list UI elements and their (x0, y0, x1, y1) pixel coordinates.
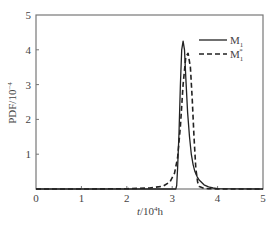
series-line-m1 (36, 41, 263, 189)
y-tick-label: 2 (26, 113, 32, 125)
x-tick-label: 0 (33, 192, 39, 204)
y-tick-label: 5 (26, 9, 32, 21)
pdf-chart: 01234512345 t/104h PDF/10−4 M1 M1* (0, 0, 272, 229)
series-line-m1-star (36, 53, 263, 189)
y-axis-label: PDF/10−4 (6, 82, 18, 124)
y-tick-label: 4 (26, 44, 32, 56)
legend: M1 M1* (199, 34, 244, 63)
x-axis-label: t/104h (137, 205, 164, 217)
legend-label-m1-star: M1* (230, 47, 244, 63)
x-tick-label: 4 (215, 192, 221, 204)
plot-frame (36, 15, 263, 189)
x-tick-label: 3 (169, 192, 175, 204)
x-tick-label: 1 (79, 192, 85, 204)
x-tick-label: 2 (124, 192, 130, 204)
y-tick-label: 1 (26, 148, 32, 160)
x-tick-label: 5 (260, 192, 266, 204)
y-tick-label: 3 (26, 79, 32, 91)
series-lines (36, 41, 263, 189)
